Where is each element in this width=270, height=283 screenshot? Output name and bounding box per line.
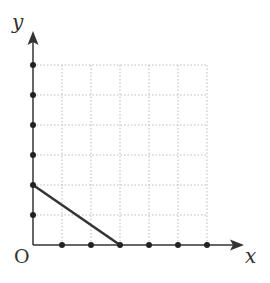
coordinate-diagram: y x O bbox=[0, 0, 270, 283]
y-axis-label: y bbox=[11, 10, 24, 34]
y-axis-point bbox=[30, 152, 36, 158]
x-axis-point bbox=[117, 242, 123, 248]
y-axis-point bbox=[30, 182, 36, 188]
y-axis-point bbox=[30, 212, 36, 218]
grid bbox=[33, 65, 207, 245]
y-axis-point bbox=[30, 92, 36, 98]
x-axis-point bbox=[146, 242, 152, 248]
x-axis-point bbox=[59, 242, 65, 248]
x-axis-point bbox=[175, 242, 181, 248]
y-axis-point bbox=[30, 62, 36, 68]
x-axis-point bbox=[204, 242, 210, 248]
origin-label: O bbox=[14, 245, 30, 267]
y-axis-point bbox=[30, 122, 36, 128]
x-axis-point bbox=[88, 242, 94, 248]
x-axis-label: x bbox=[245, 244, 256, 268]
